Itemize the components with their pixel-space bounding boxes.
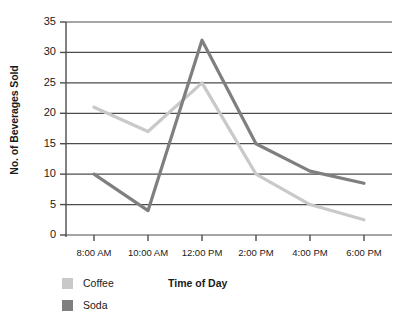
- y-tick-label: 10: [28, 168, 56, 179]
- series-line-coffee: [94, 83, 364, 220]
- x-tick-label: 2:00 PM: [238, 248, 273, 258]
- x-tick-label: 10:00 AM: [128, 248, 168, 258]
- x-tick-label: 12:00 PM: [182, 248, 223, 258]
- y-tick-label: 0: [28, 229, 56, 240]
- legend-swatch-icon: [62, 278, 73, 289]
- y-tick-label: 25: [28, 77, 56, 88]
- legend-label: Soda: [83, 299, 108, 311]
- legend-label: Coffee: [83, 277, 114, 289]
- x-tick-label: 6:00 PM: [346, 248, 381, 258]
- x-axis-title: Time of Day: [168, 277, 227, 289]
- legend-item[interactable]: Soda: [62, 294, 114, 316]
- x-tick-label: 4:00 PM: [292, 248, 327, 258]
- beverage-sales-line-chart: No. of Beverages Sold 05101520253035 8:0…: [0, 0, 406, 323]
- plot-area: [0, 0, 406, 323]
- y-tick-label: 15: [28, 138, 56, 149]
- y-tick-label: 5: [28, 199, 56, 210]
- chart-legend: CoffeeSoda: [62, 272, 114, 316]
- legend-swatch-icon: [62, 300, 73, 311]
- y-tick-label: 35: [28, 16, 56, 27]
- series-lines: [94, 40, 364, 220]
- legend-item[interactable]: Coffee: [62, 272, 114, 294]
- x-tick-label: 8:00 AM: [77, 248, 112, 258]
- x-axis-ticks: [94, 235, 364, 241]
- y-tick-label: 20: [28, 107, 56, 118]
- axis-lines: [60, 22, 66, 237]
- y-tick-label: 30: [28, 46, 56, 57]
